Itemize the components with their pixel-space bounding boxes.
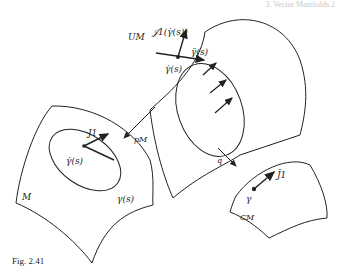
um-label: UM: [128, 32, 146, 42]
pm-arrow: [124, 107, 155, 138]
cm-label: CM: [240, 213, 255, 222]
j1-label: J1: [86, 128, 97, 138]
fiber-label: 𝒥1(γ̇(s)): [151, 27, 188, 37]
m-velocity-label: γ̇(s): [66, 156, 84, 166]
manifold-diagram: UM 𝒥1(γ̇(s)) γ̈(s) γ̇(s) J1 γ̇(s) γ(s) M…: [0, 0, 339, 280]
cm-point-label: γ: [246, 194, 252, 204]
figure-caption: Fig. 2.41: [12, 256, 44, 266]
um-point-label: γ̇(s): [165, 64, 183, 74]
pm-label: pM: [134, 135, 148, 144]
q-label: q: [217, 156, 222, 165]
cm-patch: J̄1 γ CM: [230, 162, 327, 238]
m-label: M: [21, 192, 32, 202]
gamma-label: γ(s): [117, 194, 135, 204]
um-tangent-label: γ̈(s): [191, 47, 209, 57]
j1bar-label: J̄1: [275, 169, 286, 180]
